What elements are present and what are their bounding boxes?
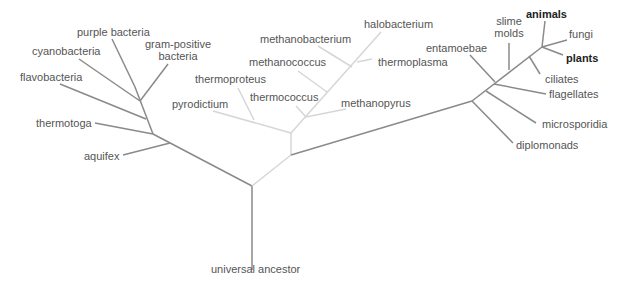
label-animals: animals	[526, 8, 567, 20]
label-aquifex: aquifex	[84, 150, 119, 162]
label-diplomonads: diplomonads	[516, 139, 578, 151]
label-flavobacteria: flavobacteria	[20, 71, 82, 83]
label-slime-molds: slime molds	[490, 15, 528, 39]
label-slime-line2: molds	[490, 27, 528, 39]
label-microsporidia: microsporidia	[542, 118, 607, 130]
label-gram-positive-line1: gram-positive	[145, 38, 211, 50]
label-methanococcus: methanococcus	[249, 56, 326, 68]
label-methanobacterium: methanobacterium	[260, 33, 351, 45]
label-thermococcus: thermococcus	[250, 91, 318, 103]
label-pyrodictium: pyrodictium	[172, 98, 228, 110]
label-thermotoga: thermotoga	[36, 117, 92, 129]
label-flagellates: flagellates	[549, 88, 599, 100]
label-thermoplasma: thermoplasma	[378, 56, 448, 68]
label-universal-ancestor: universal ancestor	[211, 263, 300, 275]
label-ciliates: ciliates	[545, 73, 579, 85]
label-methanopyrus: methanopyrus	[341, 97, 411, 109]
label-purple-bacteria: purple bacteria	[77, 26, 150, 38]
label-gram-positive-bacteria: gram-positive bacteria	[145, 38, 211, 62]
label-slime-line1: slime	[490, 15, 528, 27]
label-cyanobacteria: cyanobacteria	[32, 45, 101, 57]
label-entamoebae: entamoebae	[426, 42, 487, 54]
label-fungi: fungi	[569, 28, 593, 40]
label-halobacterium: halobacterium	[364, 18, 433, 30]
label-gram-positive-line2: bacteria	[145, 50, 211, 62]
label-thermoproteus: thermoproteus	[195, 73, 266, 85]
label-plants: plants	[566, 52, 598, 64]
